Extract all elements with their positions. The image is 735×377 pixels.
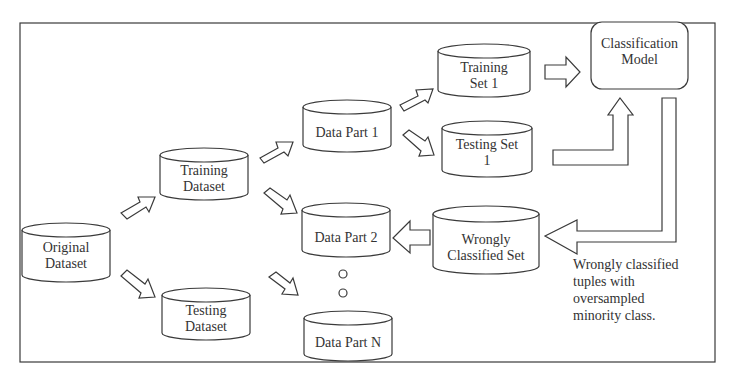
training-dataset-label: Training Dataset	[160, 163, 248, 195]
label-line: 1	[442, 153, 532, 169]
arrow-original-to-testing-icon	[121, 270, 155, 298]
label-line: Dataset	[160, 179, 248, 195]
label-line: Classified Set	[433, 248, 539, 264]
testing-set-1-label: Testing Set 1	[442, 137, 532, 169]
label-line: Testing	[162, 303, 250, 319]
label-line: Original	[22, 240, 110, 256]
arrow-training-to-datapartn-icon	[269, 272, 298, 295]
testing-dataset-label: Testing Dataset	[162, 303, 250, 335]
training-set-1-label: Training Set 1	[438, 60, 530, 92]
arrow-model-to-wrongly-icon	[545, 98, 676, 254]
arrow-trainingset1-to-model-icon	[545, 57, 580, 87]
label-line: Classification	[591, 36, 688, 52]
annotation-line: oversampled	[573, 290, 713, 307]
annotation-line: tuples with	[573, 273, 713, 290]
annotation-line: minority class.	[573, 307, 713, 324]
annotation-text: Wrongly classified tuples with oversampl…	[573, 256, 713, 324]
data-part-1-label: Data Part 1	[303, 125, 391, 141]
arrow-testingset1-to-model-icon	[553, 98, 633, 165]
label-line: Training	[160, 163, 248, 179]
label-line: Model	[591, 52, 688, 68]
ellipsis-dot-icon	[339, 289, 347, 297]
label-line: Set 1	[438, 76, 530, 92]
label-line: Dataset	[22, 256, 110, 272]
ellipsis-dot-icon	[339, 270, 347, 278]
annotation-line: Wrongly classified	[573, 256, 713, 273]
label-line: Training	[438, 60, 530, 76]
data-part-n-label: Data Part N	[304, 335, 392, 351]
original-dataset-label: Original Dataset	[22, 240, 110, 272]
arrow-datapart1-to-trainingset1-icon	[400, 89, 433, 111]
arrow-original-to-training-icon	[121, 197, 155, 219]
arrow-training-to-datapart1-icon	[260, 142, 293, 163]
wrongly-classified-set-label: Wrongly Classified Set	[433, 232, 539, 264]
arrow-training-to-datapart2-icon	[264, 188, 297, 214]
classification-model-label: Classification Model	[591, 36, 688, 68]
label-line: Testing Set	[442, 137, 532, 153]
arrow-wrongly-to-datapart2-icon	[393, 221, 430, 253]
arrow-datapart1-to-testingset1-icon	[403, 130, 434, 156]
label-line: Dataset	[162, 319, 250, 335]
data-part-2-label: Data Part 2	[302, 230, 390, 246]
label-line: Wrongly	[433, 232, 539, 248]
